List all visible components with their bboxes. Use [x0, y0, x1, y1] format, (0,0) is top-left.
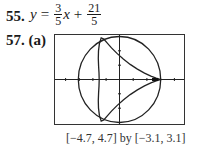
calculator-graph	[54, 34, 185, 125]
equals-sign: =	[41, 6, 49, 23]
problem-55-equation: y = 3 5 x + 21 5	[30, 2, 102, 27]
cusp-marker	[152, 78, 158, 81]
problem-55-label: 55.	[6, 8, 25, 25]
problem-57-label: 57. (a)	[6, 32, 46, 49]
graph-plot	[55, 35, 184, 124]
plus-sign: +	[74, 6, 82, 23]
viewing-window-caption: [−4.7, 4.7] by [−3.1, 3.1]	[66, 131, 186, 146]
fraction-2-denominator: 5	[91, 15, 97, 27]
fraction-1: 3 5	[54, 2, 62, 27]
fraction-2: 21 5	[87, 2, 101, 27]
fraction-1-denominator: 5	[55, 15, 61, 27]
equation-lhs: y	[30, 6, 37, 23]
equation-variable: x	[63, 6, 70, 23]
